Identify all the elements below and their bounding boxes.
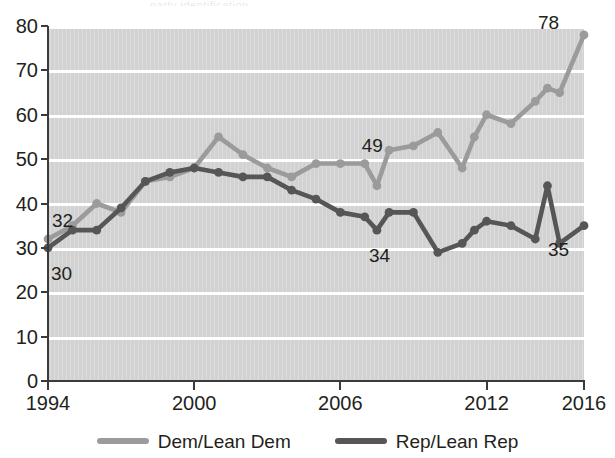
y-tick-label-60: 60 bbox=[0, 105, 38, 125]
data-point-rep bbox=[409, 208, 418, 217]
y-tick-20 bbox=[41, 291, 48, 293]
x-tick-label-2016: 2016 bbox=[554, 392, 614, 414]
rep-end-label: 35 bbox=[548, 240, 569, 259]
dem-end-label: 78 bbox=[538, 13, 559, 32]
data-point-dem bbox=[458, 164, 467, 173]
y-tick-label-0: 0 bbox=[0, 371, 38, 391]
y-tick-label-70: 70 bbox=[0, 60, 38, 80]
y-tick-label-20: 20 bbox=[0, 282, 38, 302]
data-point-rep bbox=[360, 212, 369, 221]
y-tick-label-80: 80 bbox=[0, 16, 38, 36]
data-point-dem bbox=[543, 84, 552, 93]
data-point-rep bbox=[373, 226, 382, 235]
data-point-rep bbox=[214, 168, 223, 177]
data-point-rep bbox=[385, 208, 394, 217]
data-point-rep bbox=[165, 168, 174, 177]
data-point-rep bbox=[190, 164, 199, 173]
x-tick-2006 bbox=[339, 382, 341, 390]
rep-mid-label: 34 bbox=[369, 246, 390, 265]
y-tick-label-30: 30 bbox=[0, 238, 38, 258]
data-point-rep bbox=[507, 221, 516, 230]
x-tick-2012 bbox=[486, 382, 488, 390]
y-tick-40 bbox=[41, 203, 48, 205]
series-lines bbox=[48, 26, 584, 381]
data-point-rep bbox=[580, 221, 589, 230]
rep-start-label: 30 bbox=[51, 264, 72, 283]
cropped-header-text: party identification bbox=[150, 0, 400, 6]
data-point-dem bbox=[336, 159, 345, 168]
data-point-rep bbox=[239, 172, 248, 181]
data-point-dem bbox=[373, 181, 382, 190]
legend: Dem/Lean Dem Rep/Lean Rep bbox=[0, 427, 615, 455]
x-tick-2000 bbox=[193, 382, 195, 390]
legend-item-dem: Dem/Lean Dem bbox=[97, 432, 291, 451]
x-tick-1994 bbox=[47, 382, 49, 390]
data-point-dem bbox=[409, 141, 418, 150]
data-point-dem bbox=[580, 30, 589, 39]
y-tick-60 bbox=[41, 114, 48, 116]
data-point-dem bbox=[312, 159, 321, 168]
series-line-rep bbox=[48, 168, 584, 252]
legend-item-rep: Rep/Lean Rep bbox=[335, 432, 519, 451]
data-point-dem bbox=[433, 128, 442, 137]
data-point-rep bbox=[433, 248, 442, 257]
data-point-dem bbox=[287, 172, 296, 181]
data-point-dem bbox=[470, 133, 479, 142]
x-tick-2016 bbox=[583, 382, 585, 390]
data-point-dem bbox=[555, 88, 564, 97]
dem-start-label: 32 bbox=[52, 211, 73, 230]
y-tick-50 bbox=[41, 158, 48, 160]
y-tick-label-50: 50 bbox=[0, 149, 38, 169]
data-point-rep bbox=[141, 177, 150, 186]
data-point-dem bbox=[360, 159, 369, 168]
data-point-rep bbox=[482, 217, 491, 226]
y-tick-70 bbox=[41, 69, 48, 71]
y-tick-80 bbox=[41, 25, 48, 27]
series-line-dem bbox=[48, 35, 584, 239]
x-tick-label-2000: 2000 bbox=[164, 392, 224, 414]
y-tick-10 bbox=[41, 336, 48, 338]
dem-mid-label: 49 bbox=[362, 136, 383, 155]
chart-figure: party identification 80706050403020100 1… bbox=[0, 0, 615, 458]
data-point-rep bbox=[543, 181, 552, 190]
data-point-dem bbox=[507, 119, 516, 128]
data-point-dem bbox=[214, 133, 223, 142]
data-point-dem bbox=[92, 199, 101, 208]
data-point-rep bbox=[336, 208, 345, 217]
data-point-rep bbox=[92, 226, 101, 235]
data-point-rep bbox=[117, 204, 126, 213]
data-point-rep bbox=[287, 186, 296, 195]
data-point-dem bbox=[531, 97, 540, 106]
y-tick-30 bbox=[41, 247, 48, 249]
data-point-rep bbox=[263, 172, 272, 181]
data-point-dem bbox=[263, 164, 272, 173]
data-point-rep bbox=[458, 239, 467, 248]
legend-label-dem: Dem/Lean Dem bbox=[158, 432, 291, 451]
x-tick-label-2012: 2012 bbox=[457, 392, 517, 414]
legend-line-swatch-rep bbox=[335, 438, 387, 444]
data-point-dem bbox=[385, 146, 394, 155]
data-point-rep bbox=[470, 226, 479, 235]
y-tick-label-10: 10 bbox=[0, 327, 38, 347]
data-point-dem bbox=[482, 110, 491, 119]
y-tick-label-40: 40 bbox=[0, 194, 38, 214]
data-point-rep bbox=[312, 195, 321, 204]
x-axis-line bbox=[47, 380, 585, 382]
x-tick-label-1994: 1994 bbox=[18, 392, 78, 414]
x-tick-label-2006: 2006 bbox=[310, 392, 370, 414]
legend-label-rep: Rep/Lean Rep bbox=[396, 432, 519, 451]
data-point-dem bbox=[239, 150, 248, 159]
data-point-rep bbox=[531, 235, 540, 244]
legend-line-swatch-dem bbox=[97, 438, 149, 444]
